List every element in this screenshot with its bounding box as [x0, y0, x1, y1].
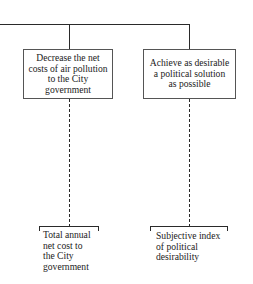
dashed-connector-right	[189, 99, 190, 227]
objective-box-cost: Decrease the net costs of air pollution …	[23, 49, 113, 99]
objective-text: Decrease the net costs of air pollution …	[28, 53, 107, 95]
attribute-label-political: Subjective index of political desirabili…	[156, 231, 220, 263]
objective-box-political: Achieve as desirable a political solutio…	[143, 49, 236, 99]
attribute-label-cost: Total annual net cost to the City govern…	[43, 230, 91, 272]
connector-line-left	[69, 24, 70, 49]
connector-line-right	[189, 24, 190, 49]
objective-text: Achieve as desirable a political solutio…	[150, 58, 229, 90]
dashed-connector-left	[69, 99, 70, 227]
top-connector-line	[0, 24, 190, 25]
